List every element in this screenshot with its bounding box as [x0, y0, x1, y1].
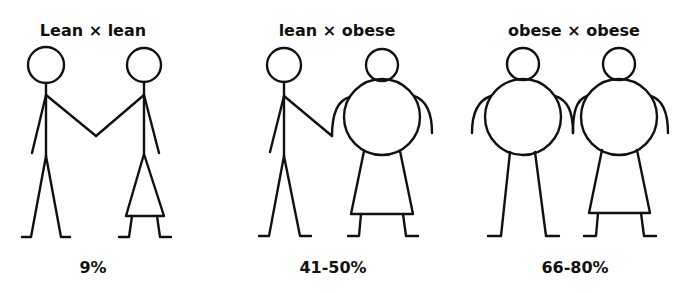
head-icon	[366, 49, 398, 81]
round-body	[344, 79, 420, 155]
skirt	[126, 154, 164, 216]
left-leg	[259, 156, 284, 236]
obese-man-figure	[472, 48, 573, 236]
head-icon	[267, 48, 301, 82]
right-leg	[46, 156, 70, 237]
percentage-label: 41-50%	[299, 258, 366, 277]
head-icon	[603, 48, 635, 80]
panel-lean-lean: Lean × lean 9%	[22, 21, 171, 277]
right-leg	[641, 213, 656, 236]
skirt	[351, 151, 413, 214]
left-leg	[348, 214, 361, 236]
right-arm	[144, 95, 159, 153]
panel-title: lean × obese	[279, 21, 396, 40]
panel-title: Lean × lean	[40, 21, 146, 40]
percentage-label: 66-80%	[541, 258, 608, 277]
obese-woman-figure	[332, 49, 432, 236]
panel-obese-obese: obese × obese 66-80%	[472, 21, 668, 277]
right-arm	[46, 95, 96, 136]
right-leg	[403, 214, 418, 236]
right-arm	[284, 96, 332, 136]
left-leg	[119, 216, 132, 237]
left-leg	[488, 152, 510, 236]
right-leg	[284, 156, 311, 236]
head-icon	[507, 48, 539, 80]
percentage-label: 9%	[79, 258, 106, 277]
panel-title: obese × obese	[508, 21, 640, 40]
lean-man-figure	[259, 48, 332, 236]
panel-lean-obese: lean × obese 41-50%	[259, 21, 432, 277]
lean-woman-figure	[96, 48, 171, 237]
head-icon	[28, 47, 64, 83]
skirt	[589, 150, 650, 213]
round-body	[485, 79, 561, 155]
lean-man-figure	[22, 47, 96, 237]
round-body	[581, 79, 657, 155]
left-arm	[96, 95, 144, 136]
right-leg	[157, 216, 171, 237]
left-leg	[22, 156, 46, 237]
head-icon	[127, 48, 161, 82]
left-arm	[32, 95, 46, 153]
obesity-inheritance-diagram: Lean × lean 9% lean × obese	[0, 0, 687, 293]
right-leg	[535, 152, 559, 236]
left-arm	[270, 96, 284, 152]
left-leg	[584, 213, 598, 236]
obese-woman-figure	[573, 48, 668, 236]
